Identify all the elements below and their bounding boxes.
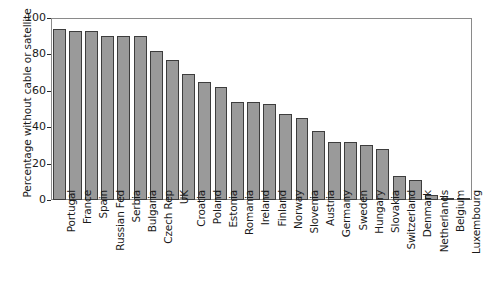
bar bbox=[296, 118, 309, 200]
bar bbox=[279, 114, 292, 200]
x-tick-label: UK bbox=[177, 190, 191, 280]
y-axis-tick-labels: 020406080100 bbox=[20, 0, 46, 283]
x-tick-label: Sweden bbox=[356, 190, 370, 280]
x-axis-tick-labels: PortugalFranceSpainRussian FedSerbiaBulg… bbox=[51, 200, 472, 283]
x-tick-label: Luxembourg bbox=[469, 190, 483, 280]
x-tick-label: Russian Fed bbox=[113, 190, 127, 280]
bar bbox=[263, 104, 276, 200]
x-tick-label: Poland bbox=[210, 190, 224, 280]
y-tick-label: 60 bbox=[20, 86, 46, 96]
x-tick-label: Finland bbox=[275, 190, 289, 280]
x-tick-label: Serbia bbox=[129, 190, 143, 280]
bar bbox=[182, 74, 195, 200]
x-tick-label: Denmark bbox=[420, 190, 434, 280]
bar bbox=[166, 60, 179, 200]
plot-area bbox=[51, 18, 472, 200]
x-tick-label: Croatia bbox=[194, 190, 208, 280]
bar bbox=[53, 29, 66, 200]
bar bbox=[150, 51, 163, 200]
x-tick-label: France bbox=[80, 190, 94, 280]
x-tick-label: Germany bbox=[339, 190, 353, 280]
bar bbox=[101, 36, 114, 200]
x-tick-label: Norway bbox=[291, 190, 305, 280]
x-tick-label: Slovakia bbox=[388, 190, 402, 280]
bar-chart: Percentage without cable or satellite 02… bbox=[0, 0, 485, 283]
y-tick-mark bbox=[47, 200, 51, 201]
bar bbox=[215, 87, 228, 200]
y-tick-label: 40 bbox=[20, 122, 46, 132]
x-tick-label: Switzerland bbox=[404, 190, 418, 280]
x-tick-label: Estonia bbox=[226, 190, 240, 280]
x-tick-label: Portugal bbox=[64, 190, 78, 280]
y-tick-mark bbox=[47, 127, 51, 128]
x-tick-label: Slovenia bbox=[307, 190, 321, 280]
x-tick-label: Ireland bbox=[258, 190, 272, 280]
x-tick-label: Austria bbox=[323, 190, 337, 280]
x-tick-label: Bulgaria bbox=[145, 190, 159, 280]
y-tick-label: 0 bbox=[20, 195, 46, 205]
x-tick-label: Romania bbox=[242, 190, 256, 280]
y-tick-mark bbox=[47, 18, 51, 19]
y-tick-label: 100 bbox=[20, 13, 46, 23]
bar bbox=[198, 82, 211, 200]
x-tick-label: Belgium bbox=[453, 190, 467, 280]
bar bbox=[231, 102, 244, 200]
y-tick-label: 80 bbox=[20, 49, 46, 59]
y-tick-mark bbox=[47, 164, 51, 165]
bar bbox=[117, 36, 130, 200]
bar bbox=[134, 36, 147, 200]
x-tick-label: Czech Rep bbox=[161, 190, 175, 280]
y-tick-mark bbox=[47, 91, 51, 92]
bar bbox=[247, 102, 260, 200]
x-tick-label: Netherlands bbox=[437, 190, 451, 280]
x-tick-label: Hungary bbox=[372, 190, 386, 280]
y-tick-label: 20 bbox=[20, 159, 46, 169]
y-tick-mark bbox=[47, 54, 51, 55]
x-tick-label: Spain bbox=[96, 190, 110, 280]
bar bbox=[85, 31, 98, 200]
bar bbox=[69, 31, 82, 200]
